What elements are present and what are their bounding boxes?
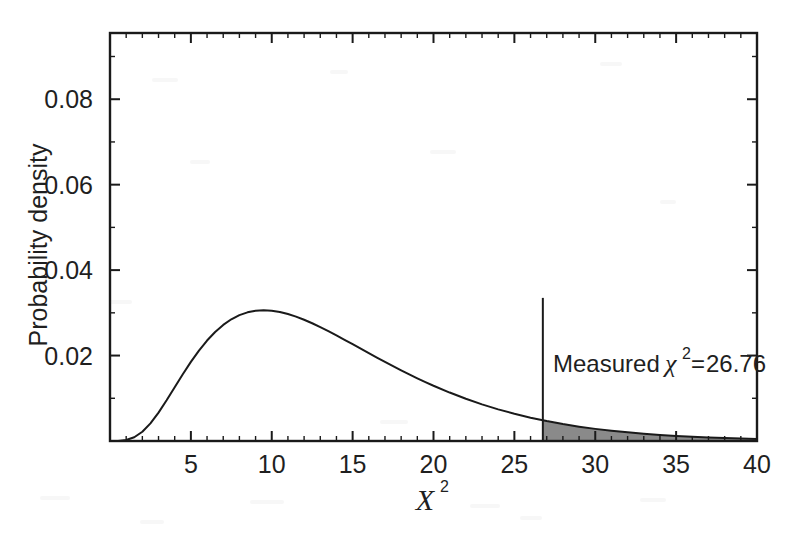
measured-annotation-value: 26.76 bbox=[706, 350, 766, 377]
chart-canvas: 510152025303540 0.020.040.060.08 Probabi… bbox=[0, 0, 792, 533]
measured-annotation-symbol: χ bbox=[662, 349, 677, 378]
x-axis-title-superscript: 2 bbox=[440, 478, 449, 495]
x-tick-label: 30 bbox=[581, 450, 609, 478]
measured-annotation-equals: = bbox=[691, 350, 705, 377]
measured-annotation-prefix: Measured bbox=[553, 350, 660, 377]
chi-squared-distribution-figure: 510152025303540 0.020.040.060.08 Probabi… bbox=[0, 0, 792, 533]
x-tick-label: 15 bbox=[339, 450, 367, 478]
y-axis-title: Probability density bbox=[24, 143, 52, 346]
measured-annotation-superscript: 2 bbox=[682, 345, 691, 362]
x-tick-label: 5 bbox=[184, 450, 198, 478]
x-tick-label: 35 bbox=[662, 450, 690, 478]
x-tick-label: 20 bbox=[420, 450, 448, 478]
x-tick-label: 40 bbox=[743, 450, 771, 478]
x-tick-label: 25 bbox=[500, 450, 528, 478]
y-tick-label: 0.08 bbox=[44, 85, 93, 113]
x-tick-label: 10 bbox=[258, 450, 286, 478]
x-axis-title-symbol: Χ bbox=[415, 483, 436, 516]
measured-value-annotation: Measured χ 2 = 26.76 bbox=[553, 345, 766, 378]
